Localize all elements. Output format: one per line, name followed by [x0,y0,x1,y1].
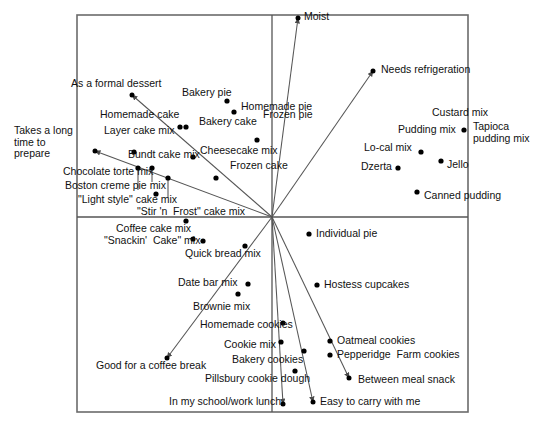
attribute-vector-1 [272,71,373,217]
product-label-16: Date bar mix [178,277,238,289]
data-point [306,231,311,236]
product-label-30: Jello [447,159,469,171]
product-label-10: Boston creme pie mix [65,180,166,192]
product-label-31: Dzerta [361,161,392,173]
attribute-label-1: Needs refrigeration [381,64,470,76]
product-label-32: Canned pudding [424,190,501,202]
product-label-0: Bakery pie [182,87,232,99]
product-label-12: "Stir 'n Frost" cake mix [137,206,245,218]
attribute-vector-tip-2 [130,93,135,98]
data-point [213,175,218,180]
perceptual-map-figure: Bakery pieHomemade pieBakery cakeHomemad… [0,0,551,440]
product-label-21: Pillsbury cookie dough [205,373,310,385]
data-point [245,281,250,286]
attribute-label-4: Good for a coffee break [96,360,206,372]
product-label-5: Layer cake mix [104,125,175,137]
product-label-29: Lo-cal mix [364,142,412,154]
data-point [461,127,466,132]
product-label-19: Cookie mix [224,339,276,351]
attribute-vector-tip-3 [93,149,98,154]
attribute-label-7: In my school/work lunch [169,396,281,408]
product-label-6: Bundt cake mix [128,149,200,161]
attribute-vector-tip-0 [296,16,301,21]
product-label-3: Homemade cake [100,109,179,121]
product-label-7: Cheesecake mix [200,145,278,157]
product-label-18: Homemade cookies [200,319,293,331]
attribute-label-6: Easy to carry with me [320,396,420,408]
data-point [314,282,319,287]
product-label-26: Custard mix [432,107,488,119]
data-point [165,175,170,180]
data-point [278,339,283,344]
product-label-2: Bakery cake [199,116,257,128]
product-label-14: "Snackin' Cake" mix [104,235,200,247]
data-point [231,109,236,114]
attribute-label-5: Between meal snack [358,374,455,386]
data-point [327,338,332,343]
product-label-11: "Light style" cake mix [78,194,177,206]
data-point [183,124,188,129]
product-label-20: Bakery cookies [232,354,303,366]
product-label-27: Pudding mix [398,124,456,136]
data-point [414,189,419,194]
attribute-vector-tip-5 [347,376,352,381]
data-point [200,238,205,243]
attribute-label-3: Takes a long time to prepare [14,125,76,160]
product-label-13: Coffee cake mix [116,223,191,235]
data-point [235,291,240,296]
product-label-9: Chocolate torte mix [63,166,153,178]
product-label-17: Brownie mix [193,301,250,313]
data-point [438,158,443,163]
attribute-vector-tip-6 [311,400,316,405]
data-point [327,352,332,357]
product-label-24: Oatmeal cookies [337,335,415,347]
data-point [395,165,400,170]
product-label-8: Frozen cake [230,160,288,172]
data-point [224,98,229,103]
attribute-vector-tip-7 [281,402,286,407]
data-point [177,124,182,129]
attribute-label-2: As a formal dessert [71,78,161,90]
product-label-25: Pepperidge Farm cookies [337,349,460,361]
product-label-4: Frozen pie [263,109,313,121]
attribute-label-0: Moist [304,11,329,23]
product-label-28: Tapioca pudding mix [473,121,531,144]
attribute-vector-tip-1 [371,69,376,74]
product-label-22: Individual pie [316,228,377,240]
product-label-23: Hostess cupcakes [324,279,409,291]
data-point [418,149,423,154]
data-point [254,137,259,142]
product-label-15: Quick bread mix [185,248,261,260]
